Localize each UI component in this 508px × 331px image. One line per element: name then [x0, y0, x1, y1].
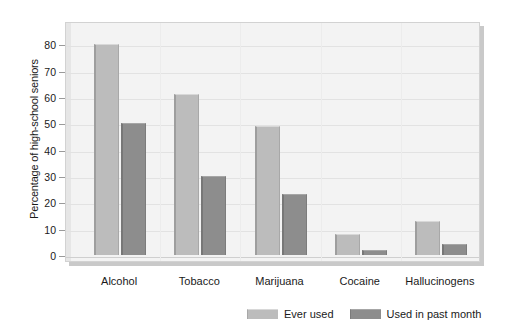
bar-marijuana-ever-used [255, 126, 280, 255]
bar-alcohol-past-month [121, 123, 146, 255]
x-axis-label-tobacco: Tobacco [179, 275, 220, 287]
legend-swatch-icon [350, 309, 381, 319]
axis-baseline [66, 257, 479, 258]
bar-alcohol-ever-used [94, 44, 119, 255]
y-tick-label: 30 [22, 172, 56, 182]
bar-cocaine-past-month [362, 250, 387, 255]
x-axis-label-cocaine: Cocaine [340, 275, 380, 287]
y-tick-label: 60 [22, 93, 56, 103]
y-tick-label: 20 [22, 198, 56, 208]
gridline [66, 99, 479, 100]
bar-tobacco-past-month [201, 176, 226, 255]
plot-area [65, 22, 480, 262]
bar-chart: Percentage of high-school seniors 807060… [0, 0, 508, 331]
group-separator [240, 23, 241, 261]
group-separator [160, 23, 161, 261]
plot-left-band [66, 23, 71, 261]
x-axis-label-hallucinogens: Hallucinogens [405, 275, 474, 287]
legend-item-ever-used: Ever used [247, 308, 334, 320]
bar-marijuana-past-month [282, 194, 307, 255]
x-axis-label-marijuana: Marijuana [255, 275, 303, 287]
y-tick-label: 0 [22, 251, 56, 261]
y-tick-label: 40 [22, 146, 56, 156]
y-tick-label: 80 [22, 40, 56, 50]
legend-label: Ever used [284, 308, 334, 320]
bar-hallucinogens-past-month [442, 244, 467, 255]
bar-cocaine-ever-used [335, 234, 360, 255]
group-separator [321, 23, 322, 261]
x-axis-label-alcohol: Alcohol [101, 275, 137, 287]
group-separator [401, 23, 402, 261]
bar-tobacco-ever-used [174, 94, 199, 255]
legend-swatch-icon [247, 309, 278, 319]
legend-item-used-in-past-month: Used in past month [350, 308, 482, 320]
bar-hallucinogens-ever-used [415, 221, 440, 255]
legend-label: Used in past month [387, 308, 482, 320]
y-tick-label: 10 [22, 225, 56, 235]
y-tick-label: 50 [22, 119, 56, 129]
gridline [66, 46, 479, 47]
gridline [66, 73, 479, 74]
chart-legend: Ever usedUsed in past month [247, 308, 481, 320]
y-tick-label: 70 [22, 67, 56, 77]
